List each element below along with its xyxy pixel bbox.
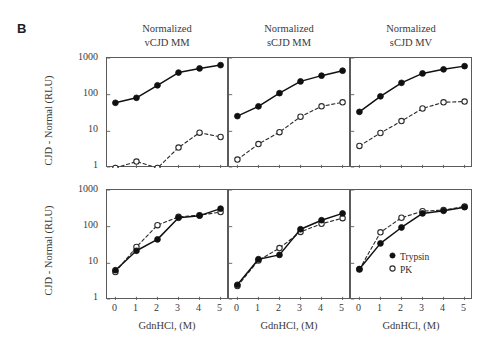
data-point-pk-2 (155, 165, 160, 168)
plot-canvas-bottom-vcjd-mm (107, 190, 229, 300)
y-tick-bottom-1: 1 (64, 292, 98, 302)
data-point-trypsin-3 (176, 70, 182, 76)
data-point-trypsin-2 (399, 80, 405, 86)
data-point-pk-0 (357, 143, 362, 148)
data-point-trypsin-4 (197, 213, 203, 219)
data-point-trypsin-3 (298, 226, 304, 232)
data-point-pk-5 (218, 134, 223, 139)
series-line-trypsin (115, 209, 220, 271)
legend-item-pk: PK (384, 263, 429, 276)
data-point-pk-1 (134, 159, 139, 164)
y-tick-bottom-10: 10 (64, 256, 98, 266)
data-point-pk-0 (235, 157, 240, 162)
data-point-trypsin-3 (420, 71, 426, 77)
legend-label-trypsin: Trypsin (400, 252, 429, 262)
column-title-2-line1: Normalized (228, 22, 350, 36)
x-tick-1-0: 0 (107, 303, 121, 313)
plot-canvas-top-vcjd-mm (107, 58, 229, 168)
data-point-trypsin-2 (155, 236, 161, 242)
data-point-trypsin-3 (298, 79, 304, 85)
plot-bottom-scjd-mm[interactable] (228, 189, 350, 299)
series-line-trypsin (237, 71, 342, 116)
x-tick-3-0: 0 (351, 303, 365, 313)
figure-panel-label: B (17, 21, 27, 36)
data-point-pk-3 (176, 145, 181, 150)
column-title-1-line2: vCJD MM (106, 36, 228, 50)
x-tick-3-2: 2 (393, 303, 407, 313)
data-point-pk-2 (277, 245, 282, 250)
plot-canvas-bottom-scjd-mm (229, 190, 351, 300)
data-point-trypsin-5 (218, 62, 224, 68)
x-tick-3-5: 5 (457, 303, 471, 313)
column-title-1: Normalized vCJD MM (106, 22, 228, 49)
data-point-trypsin-1 (256, 256, 262, 262)
data-point-pk-1 (378, 230, 383, 235)
plot-canvas-top-scjd-mv (351, 58, 473, 168)
data-point-trypsin-0 (357, 266, 363, 272)
data-point-trypsin-2 (399, 225, 405, 231)
filled-circle-icon (384, 251, 400, 262)
data-point-trypsin-1 (134, 95, 140, 101)
y-axis-label-top-row: CJD - Normal (RLU) (43, 51, 54, 191)
data-point-trypsin-5 (218, 206, 224, 212)
y-tick-top-1000: 1000 (64, 52, 98, 62)
x-tick-3-1: 1 (372, 303, 386, 313)
data-point-pk-2 (399, 215, 404, 220)
y-tick-bottom-1000: 1000 (64, 184, 98, 194)
y-tick-top-100: 100 (64, 88, 98, 98)
data-point-trypsin-1 (134, 248, 140, 254)
open-circle-icon (384, 264, 400, 275)
plot-top-scjd-mv[interactable] (350, 57, 472, 167)
legend-item-trypsin: Trypsin (384, 250, 429, 263)
data-point-trypsin-1 (378, 240, 384, 246)
series-line-trypsin (359, 66, 464, 112)
y-tick-bottom-100: 100 (64, 220, 98, 230)
data-point-trypsin-0 (357, 109, 363, 115)
series-line-pk (115, 133, 220, 168)
data-point-trypsin-1 (256, 103, 262, 109)
data-point-trypsin-0 (113, 100, 119, 106)
plot-top-scjd-mm[interactable] (228, 57, 350, 167)
x-tick-2-2: 2 (271, 303, 285, 313)
data-point-pk-4 (319, 104, 324, 109)
x-tick-3-4: 4 (436, 303, 450, 313)
data-point-trypsin-5 (462, 63, 468, 69)
x-axis-label-2: GdnHCl, (M) (228, 320, 350, 331)
x-axis-label-3: GdnHCl, (M) (350, 320, 472, 331)
data-point-pk-1 (256, 141, 261, 146)
data-point-pk-5 (462, 99, 467, 104)
data-point-pk-4 (441, 100, 446, 105)
x-tick-1-4: 4 (192, 303, 206, 313)
series-line-pk (237, 218, 342, 286)
column-title-1-line1: Normalized (106, 22, 228, 36)
data-point-trypsin-2 (277, 252, 283, 258)
x-tick-1-1: 1 (128, 303, 142, 313)
y-tick-top-1: 1 (64, 160, 98, 170)
data-point-trypsin-4 (197, 66, 203, 72)
data-point-trypsin-4 (441, 208, 447, 214)
x-tick-3-3: 3 (415, 303, 429, 313)
data-point-pk-0 (113, 165, 118, 168)
data-point-trypsin-4 (319, 217, 325, 223)
plot-canvas-bottom-scjd-mv (351, 190, 473, 300)
plot-top-vcjd-mm[interactable] (106, 57, 228, 167)
data-point-pk-5 (340, 100, 345, 105)
data-point-pk-1 (378, 130, 383, 135)
data-point-trypsin-5 (462, 204, 468, 210)
x-tick-2-4: 4 (314, 303, 328, 313)
data-point-trypsin-0 (235, 113, 241, 119)
x-tick-1-5: 5 (213, 303, 227, 313)
column-title-3: Normalized sCJD MV (350, 22, 472, 49)
column-title-2-line2: sCJD MM (228, 36, 350, 50)
plot-bottom-scjd-mv[interactable] (350, 189, 472, 299)
y-tick-top-10: 10 (64, 124, 98, 134)
x-tick-2-3: 3 (293, 303, 307, 313)
x-axis-label-1: GdnHCl, (M) (106, 320, 228, 331)
x-tick-1-2: 2 (149, 303, 163, 313)
column-title-3-line2: sCJD MV (350, 36, 472, 50)
data-point-trypsin-2 (155, 82, 161, 88)
plot-bottom-vcjd-mm[interactable] (106, 189, 228, 299)
x-tick-2-0: 0 (229, 303, 243, 313)
data-point-trypsin-1 (378, 93, 384, 99)
data-point-pk-4 (197, 130, 202, 135)
